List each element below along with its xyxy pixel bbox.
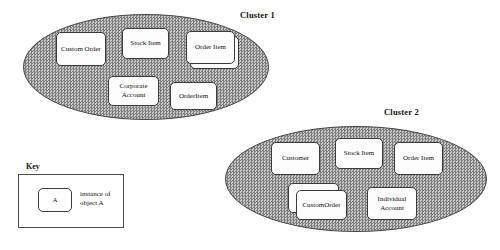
object-box-order-item-2-c1[interactable]: OrderItem (170, 82, 217, 110)
object-box-custom-order-c2[interactable]: CustomOrder (296, 190, 347, 220)
object-label: Corporate Account (120, 82, 148, 100)
object-label: Custom Order (61, 45, 101, 54)
object-label: Order Item (195, 43, 226, 52)
cluster-2-label: Cluster 2 (384, 107, 419, 117)
object-box-order-item-c2[interactable]: Order Item (394, 142, 443, 175)
object-label: CustomOrder (302, 201, 340, 210)
object-label: Individual Account (378, 195, 407, 213)
object-label: Order Item (403, 154, 434, 163)
key-title: Key (26, 162, 40, 171)
object-box-custom-order-c1[interactable]: Custom Order (56, 32, 106, 66)
object-box-corporate-account-c1[interactable]: Corporate Account (108, 76, 159, 106)
object-box-stock-item-c1[interactable]: Stock Item (122, 28, 169, 59)
object-box-individual-account-c2[interactable]: Individual Account (367, 187, 417, 220)
object-label: Stock Item (130, 39, 161, 48)
object-label: OrderItem (179, 92, 208, 101)
object-label: Customer (282, 154, 309, 163)
key-sample-label: A (52, 196, 57, 204)
object-box-stock-item-c2[interactable]: Stock Item (335, 138, 383, 169)
object-box-customer-c2[interactable]: Customer (271, 142, 320, 175)
key-sample-object-box: A (38, 188, 72, 212)
cluster-1-label: Cluster 1 (240, 10, 275, 20)
diagram-canvas: Cluster 1 Custom Order Stock Item Order … (0, 0, 500, 250)
object-label: Stock Item (344, 149, 375, 158)
key-caption: instance of object A (80, 190, 111, 209)
object-box-order-item-c1[interactable]: Order Item (186, 31, 235, 64)
